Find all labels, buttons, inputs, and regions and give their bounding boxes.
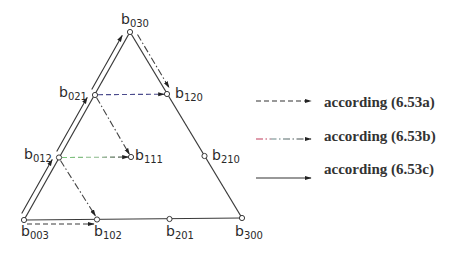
legend-label: according (6.53a) [324, 94, 435, 111]
label-b102: b102 [94, 223, 122, 241]
label-b021: b021 [59, 84, 87, 102]
edge-right [130, 32, 242, 218]
node-b300 [239, 215, 244, 220]
edge-left [24, 32, 130, 220]
arrow-b012-b111 [62, 157, 129, 158]
solid-arrows [22, 35, 123, 213]
node-labels: b030 b021 b120 b012 b111 b210 b003 b102 … [21, 11, 263, 241]
legend-item-solid: according (6.53c) [256, 161, 434, 178]
label-b201: b201 [166, 223, 194, 241]
arrow-b003-b012 [22, 160, 53, 214]
node-b030 [127, 29, 132, 34]
arrow-b012-b102 [61, 161, 96, 217]
label-b210: b210 [212, 147, 240, 165]
label-b300: b300 [235, 223, 263, 241]
label-b120: b120 [175, 85, 203, 103]
label-b003: b003 [21, 223, 49, 241]
node-b210 [202, 153, 207, 158]
edge-bottom [24, 218, 242, 220]
node-b201 [167, 216, 172, 221]
node-b120 [164, 91, 169, 96]
legend-item-dashdot: according (6.53b) [256, 128, 436, 145]
arrow-b021-b111 [97, 98, 130, 155]
arrow-b021-b030 [92, 35, 123, 89]
node-b003 [21, 217, 26, 222]
label-b012: b012 [24, 146, 52, 164]
label-b030: b030 [121, 11, 149, 29]
bezier-triangle-diagram: b030 b021 b120 b012 b111 b210 b003 b102 … [0, 0, 469, 254]
node-b021 [92, 92, 97, 97]
triangle [24, 32, 242, 220]
arrow-b012-b021 [57, 97, 87, 151]
node-b012 [56, 155, 61, 160]
legend-label: according (6.53b) [324, 128, 436, 145]
legend: according (6.53a) according (6.53b) acco… [256, 94, 436, 178]
legend-label: according (6.53c) [324, 161, 434, 178]
legend-item-dashed: according (6.53a) [256, 94, 435, 111]
node-b111 [128, 154, 133, 159]
control-points [21, 29, 244, 222]
arrow-b021-b120 [98, 94, 165, 95]
node-b102 [94, 217, 99, 222]
arrow-b030-b120 [138, 35, 170, 88]
label-b111: b111 [135, 147, 163, 165]
